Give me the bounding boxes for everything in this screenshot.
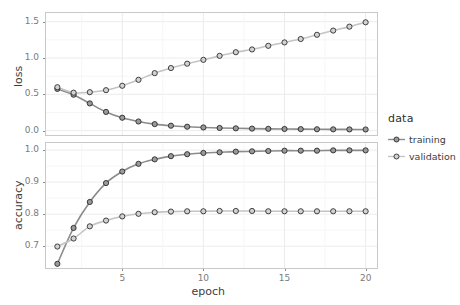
y-tick-label-loss-2: 1.0 [10, 52, 39, 62]
x-tick-mark-3 [366, 269, 367, 271]
y-tick-label-accuracy-3: 1.0 [10, 144, 39, 154]
y-axis-title-accuracy: accuracy [12, 180, 25, 230]
y-tick-mark-accuracy-0 [43, 246, 45, 247]
x-tick-mark-2 [285, 269, 286, 271]
x-tick-label-0: 5 [108, 273, 136, 283]
y-axis-title-loss: loss [12, 66, 25, 87]
panel-loss [45, 12, 378, 136]
y-tick-mark-loss-0 [43, 131, 45, 132]
y-tick-mark-loss-1 [43, 94, 45, 95]
y-tick-label-accuracy-1: 0.8 [10, 208, 39, 218]
legend: data training validation [388, 112, 458, 166]
legend-item-training[interactable]: training [388, 132, 458, 147]
x-tick-label-3: 20 [352, 273, 380, 283]
x-tick-label-2: 15 [271, 273, 299, 283]
chart-root: loss accuracy epoch 0.00.51.01.50.70.80.… [0, 0, 460, 305]
legend-key-validation-icon [388, 149, 405, 164]
legend-label-training: training [409, 134, 446, 145]
x-tick-mark-1 [203, 269, 204, 271]
y-tick-mark-accuracy-1 [43, 214, 45, 215]
y-tick-mark-loss-3 [43, 22, 45, 23]
panel-accuracy [45, 142, 378, 269]
legend-label-validation: validation [409, 151, 456, 162]
legend-title: data [388, 112, 458, 125]
y-tick-label-accuracy-0: 0.7 [10, 240, 39, 250]
y-tick-label-loss-3: 1.5 [10, 16, 39, 26]
y-tick-mark-loss-2 [43, 58, 45, 59]
y-tick-label-loss-0: 0.0 [10, 125, 39, 135]
x-tick-label-1: 10 [189, 273, 217, 283]
y-tick-label-loss-1: 0.5 [10, 88, 39, 98]
y-tick-mark-accuracy-2 [43, 182, 45, 183]
legend-item-validation[interactable]: validation [388, 149, 458, 164]
y-tick-label-accuracy-2: 0.9 [10, 176, 39, 186]
y-tick-mark-accuracy-3 [43, 150, 45, 151]
x-tick-mark-0 [122, 269, 123, 271]
legend-key-training-icon [388, 132, 405, 147]
x-axis-title: epoch [192, 285, 226, 298]
